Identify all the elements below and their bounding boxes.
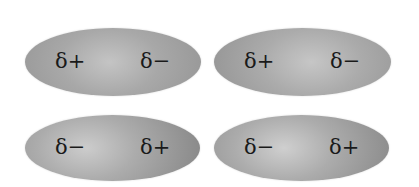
partial-charge-label: δ+: [55, 51, 85, 72]
molecule-bottom-left: δ− δ+: [25, 115, 200, 181]
partial-charge-label: δ+: [140, 137, 170, 158]
partial-charge-label: δ−: [55, 137, 85, 158]
molecule-top-right: δ+ δ−: [214, 28, 391, 96]
molecule-top-left: δ+ δ−: [25, 28, 201, 96]
partial-charge-label: δ−: [330, 51, 360, 72]
partial-charge-label: δ+: [244, 51, 274, 72]
partial-charge-label: δ−: [140, 51, 170, 72]
molecule-bottom-right: δ− δ+: [214, 115, 389, 181]
partial-charge-label: δ+: [329, 137, 359, 158]
partial-charge-label: δ−: [244, 137, 274, 158]
